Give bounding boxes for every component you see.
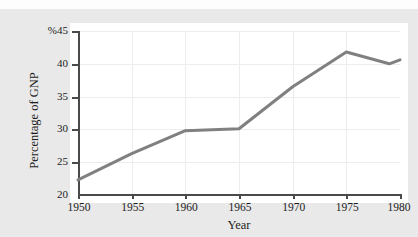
y-tick-label-25: 25 — [28, 155, 68, 167]
plot-area — [78, 31, 400, 195]
x-tick-label-1955: 1955 — [110, 201, 156, 213]
x-tick-mark — [293, 194, 295, 199]
gridline-vertical — [293, 31, 294, 195]
y-axis-line — [78, 31, 80, 196]
y-tick-mark — [72, 64, 78, 66]
x-tick-label-1950: 1950 — [56, 201, 102, 213]
x-tick-mark — [78, 194, 80, 199]
page-top-cropped-text-strip: · · · · · — [0, 0, 418, 9]
y-tick-label-20: 20 — [28, 188, 68, 200]
y-tick-mark — [72, 97, 78, 99]
x-tick-label-1975: 1975 — [324, 201, 370, 213]
y-tick-label-30: 30 — [28, 122, 68, 134]
x-tick-mark — [239, 194, 241, 199]
x-tick-mark — [185, 194, 187, 199]
x-tick-mark — [346, 194, 348, 199]
y-tick-mark — [72, 129, 78, 131]
gridline-vertical — [239, 31, 240, 195]
x-tick-mark — [132, 194, 134, 199]
x-tick-label-1960: 1960 — [163, 201, 209, 213]
y-tick-mark — [72, 31, 78, 33]
y-tick-label-35: 35 — [28, 90, 68, 102]
x-tick-label-1970: 1970 — [271, 201, 317, 213]
gridline-vertical — [132, 31, 133, 195]
gridline-vertical — [185, 31, 186, 195]
y-tick-mark — [72, 162, 78, 164]
x-tick-label-1980: 1980 — [376, 201, 418, 213]
y-tick-label-40: 40 — [28, 57, 68, 69]
cropped-text-fragment: · · · · · — [104, 0, 134, 2]
x-axis-title: Year — [78, 218, 400, 233]
x-tick-mark — [400, 194, 402, 199]
figure-line-chart: Percentage of GNP %45 40 35 30 25 20 195… — [0, 9, 418, 237]
y-tick-label-45: %45 — [28, 24, 68, 36]
x-tick-label-1965: 1965 — [217, 201, 263, 213]
gridline-vertical — [346, 31, 347, 195]
